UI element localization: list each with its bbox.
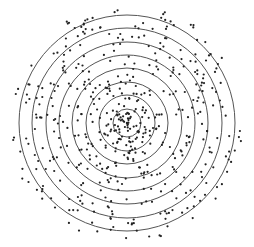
data-point [127,117,129,119]
data-point [92,121,94,123]
data-point [200,171,202,173]
data-point [155,128,157,130]
data-point [52,156,54,158]
data-point [166,25,168,27]
data-point [105,172,107,174]
data-point [26,94,28,96]
data-point [166,225,168,227]
data-point [136,93,138,95]
data-point [62,61,64,63]
data-point [126,198,128,200]
data-point [145,129,147,131]
data-point [152,28,154,30]
data-point [67,23,69,25]
data-point [137,99,139,101]
data-point [46,114,48,116]
data-point [188,141,190,143]
data-point [118,103,120,105]
data-point [164,132,166,134]
data-point [129,79,131,81]
data-point [109,130,111,132]
data-point [63,54,65,56]
data-point [197,112,199,114]
data-point [96,108,98,110]
data-point [201,176,203,178]
data-point [214,71,216,73]
data-point [131,36,133,38]
data-point [221,183,223,185]
data-point [124,97,126,99]
data-point [185,142,187,144]
data-point [62,121,64,123]
data-point [200,84,202,86]
data-point [134,152,136,154]
data-point [123,105,125,107]
data-point [110,200,112,202]
data-point [162,141,164,143]
data-point [173,168,175,170]
data-point [89,154,91,156]
data-point [124,126,126,128]
data-point [175,90,177,92]
data-point [59,180,61,182]
data-point [56,156,58,158]
data-point [169,94,171,96]
data-point [80,26,82,28]
data-point [171,190,173,192]
data-point [101,168,103,170]
data-point [149,90,151,92]
data-point [117,180,119,182]
data-point [106,112,108,114]
data-point [205,59,207,61]
data-point [113,50,115,52]
data-point [21,178,23,180]
data-point [146,164,148,166]
data-point [211,87,213,89]
data-point [108,88,110,90]
data-point [192,26,194,28]
data-point [28,98,30,100]
data-point [82,31,84,33]
data-point [111,210,113,212]
data-point [180,183,182,185]
data-point [225,155,227,157]
data-point [107,179,109,181]
data-point [53,119,55,121]
data-point [187,116,189,118]
data-point [80,149,82,151]
data-point [199,200,201,202]
data-point [80,162,82,164]
data-point [66,127,68,129]
data-point [135,125,137,127]
data-point [142,106,144,108]
data-point [215,67,217,69]
data-point [125,113,127,115]
data-point [155,66,157,68]
data-point [183,176,185,178]
data-point [82,182,84,184]
data-point [68,209,70,211]
data-point [112,95,114,97]
data-point [148,45,150,47]
data-point [85,136,87,138]
data-point [108,84,110,86]
data-point [186,135,188,137]
data-point [194,71,196,73]
data-point [205,182,207,184]
data-point [131,149,133,151]
data-point [76,88,78,90]
data-point [115,165,117,167]
data-point [128,98,130,100]
data-point [178,108,180,110]
data-point [159,42,161,44]
data-point [49,160,51,162]
data-point [129,128,131,130]
data-point [148,64,150,66]
data-point [88,71,90,73]
data-point [169,146,171,148]
data-point [155,59,157,61]
data-point [188,136,190,138]
data-point [117,9,119,11]
data-point [181,154,183,156]
data-point [92,145,94,147]
